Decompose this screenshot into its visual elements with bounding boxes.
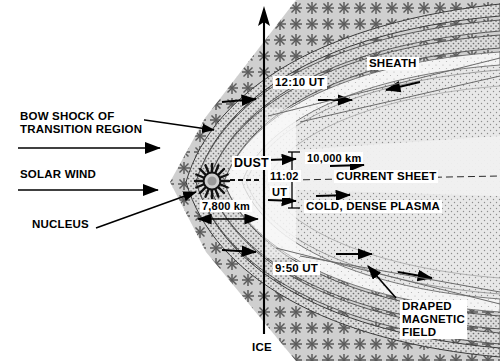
time-middle-line2: UT: [270, 186, 289, 198]
time-middle-line1: 11:02: [268, 170, 301, 182]
comet-plasma-diagram: BOW SHOCK OF TRANSITION REGION SOLAR WIN…: [0, 0, 500, 361]
nucleus-label: NUCLEUS: [30, 218, 91, 231]
current-sheet-label: CURRENT SHEET: [334, 170, 438, 183]
current-sheet-thickness-label: 10,000 km: [305, 152, 363, 164]
dust-width-label: 7,800 km: [200, 200, 252, 212]
nucleus-pointer: [96, 192, 196, 228]
time-bottom-label: 9:50 UT: [273, 262, 320, 275]
bow-shock-label: BOW SHOCK OF TRANSITION REGION: [18, 110, 144, 136]
ice-label: ICE: [250, 341, 274, 354]
sheath-label: SHEATH: [367, 57, 419, 70]
solar-wind-label: SOLAR WIND: [18, 168, 98, 181]
draped-magnetic-field-label: DRAPED MAGNETIC FIELD: [400, 300, 467, 339]
nucleus-symbol: [195, 164, 229, 198]
cold-dense-plasma-label: COLD, DENSE PLASMA: [304, 200, 442, 213]
dust-label: DUST: [232, 156, 271, 170]
time-top-label: 12:10 UT: [273, 76, 327, 89]
